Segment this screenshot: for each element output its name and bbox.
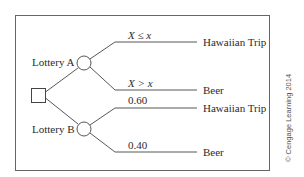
outcome-b2: Beer (203, 146, 224, 158)
lottery-a-label: Lottery A (32, 56, 75, 68)
lottery-b-label: Lottery B (32, 123, 74, 135)
condition-a2: X > x (127, 77, 153, 89)
copyright-notice: © Cengage Learning 2014 (284, 74, 293, 162)
chance-node-b (77, 122, 91, 136)
outcome-a2: Beer (203, 84, 224, 96)
probability-b1: 0.60 (128, 94, 148, 106)
condition-a1: X ≤ x (127, 29, 151, 41)
branch-line-lottery-b (46, 98, 79, 124)
probability-b2: 0.40 (128, 139, 148, 151)
outcome-line-a1 (90, 42, 197, 59)
decision-tree-diagram: Lottery A Lottery B X ≤ x X > x 0.60 0.4… (0, 0, 304, 177)
chance-node-a (77, 56, 91, 70)
outcome-a1: Hawaiian Trip (203, 36, 267, 48)
branch-line-lottery-a (46, 68, 79, 92)
outcome-b1: Hawaiian Trip (203, 102, 267, 114)
outcome-line-b1 (90, 108, 197, 125)
decision-node-square (32, 89, 46, 103)
